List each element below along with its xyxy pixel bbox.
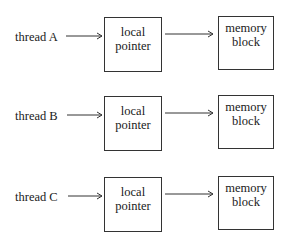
arrow-thread-to-pointer-b	[67, 112, 102, 118]
arrow-pointer-to-block-a	[165, 31, 213, 37]
arrow-pointer-to-block-b	[165, 110, 213, 116]
arrow-thread-to-pointer-a	[66, 33, 102, 39]
arrows-layer	[0, 0, 288, 247]
arrow-thread-to-pointer-c	[68, 193, 102, 199]
arrow-pointer-to-block-c	[165, 191, 213, 197]
